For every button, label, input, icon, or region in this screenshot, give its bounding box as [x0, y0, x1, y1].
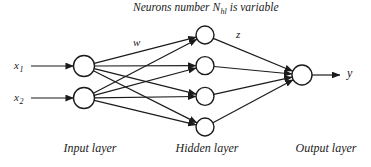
edge-input2-hidden3: [95, 97, 197, 98]
edge-hidden2-output1: [214, 67, 292, 75]
edge-input2-hidden4: [94, 100, 196, 125]
hidden-layer-caption: Hidden layer: [176, 142, 239, 154]
hidden-node-1: [196, 26, 214, 44]
diagram-canvas: Neurons number Nhl is variable x1 x2 w z…: [0, 0, 371, 167]
input-node-1: [74, 56, 95, 77]
output-node-1: [292, 65, 312, 85]
input-label-1-subscript: 1: [19, 65, 23, 74]
hidden-node-3: [196, 87, 214, 105]
diagram-title: Neurons number Nhl is variable: [133, 2, 279, 14]
edge-hidden3-output1: [214, 77, 292, 94]
input-label-1: x1: [14, 60, 23, 71]
edge-hidden1-output1: [213, 38, 292, 71]
output-layer-caption: Output layer: [296, 142, 357, 154]
input-label-2-subscript: 2: [19, 97, 23, 106]
title-subscript: hl: [221, 7, 227, 16]
title-suffix: is variable: [227, 1, 279, 13]
hidden-output-label: z: [236, 29, 240, 40]
weights-label: w: [133, 37, 140, 48]
input-label-2: x2: [14, 92, 23, 103]
hidden-node-2: [196, 57, 214, 75]
hidden-node-4: [196, 118, 214, 136]
input-node-2: [74, 88, 95, 109]
title-prefix: Neurons number N: [133, 1, 220, 13]
edge-input1-hidden1: [94, 37, 196, 63]
input-layer-caption: Input layer: [64, 142, 117, 154]
output-label: y: [347, 67, 352, 79]
